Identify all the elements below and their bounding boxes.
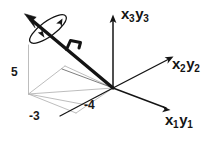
hook-marker-path	[67, 41, 81, 50]
rotation-arrowhead-upper	[56, 19, 62, 28]
axis-lines	[60, 15, 174, 117]
axis-label-x1y1: x1y1	[165, 112, 194, 127]
axis-line-x1y1	[113, 88, 166, 108]
axis-label-x2-sub: 2	[180, 63, 186, 74]
resultant-vector	[25, 14, 114, 88]
rotation-ellipse-path	[26, 10, 70, 48]
axis-label-x3-sub: 3	[129, 13, 135, 24]
rotation-ellipse	[26, 10, 70, 48]
axis-label-y1-sub: 1	[187, 119, 193, 130]
value-label-depth: -3	[29, 110, 40, 122]
axis-label-x1-sub: 1	[173, 119, 179, 130]
axis-line-x2y2	[113, 59, 169, 88]
hook-marker	[67, 41, 81, 50]
value-label-width: -4	[84, 99, 95, 111]
axis-label-x3y3: x3y3	[121, 6, 150, 21]
axis-label-y2-sub: 2	[194, 63, 200, 74]
value-label-height: 5	[11, 66, 18, 78]
axis-line-upper-left	[62, 69, 113, 88]
base-guide-upper	[29, 88, 114, 94]
axis-label-y3-sub: 3	[143, 13, 149, 24]
vector-shaft	[31, 20, 113, 89]
axis-label-x2y2: x2y2	[172, 56, 201, 71]
coordinate-system-diagram: x3y3 x2y2 x1y1 5 -3 -4	[0, 0, 220, 146]
riser-top-guide	[29, 66, 66, 94]
